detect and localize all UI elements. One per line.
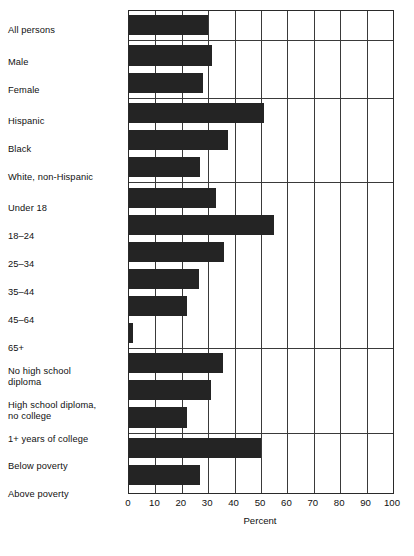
bar — [129, 323, 133, 343]
category-label: 65+ — [8, 343, 124, 354]
bar-chart: All persons Male Female Hispanic Black W… — [0, 0, 414, 556]
bar — [129, 296, 187, 316]
category-label: Hispanic — [8, 116, 124, 127]
group-separator — [129, 348, 393, 349]
plot-area — [128, 10, 394, 494]
bar — [129, 353, 223, 373]
category-label: 18–24 — [8, 231, 124, 242]
bar — [129, 45, 212, 65]
bar — [129, 242, 224, 262]
bar — [129, 465, 200, 485]
bar — [129, 215, 274, 235]
x-axis-tick-label: 10 — [149, 497, 160, 508]
x-axis-tick-label: 40 — [228, 497, 239, 508]
x-axis-tick-label: 80 — [334, 497, 345, 508]
bar — [129, 73, 203, 93]
category-label: Female — [8, 85, 124, 96]
x-axis-tick-label: 0 — [125, 497, 130, 508]
gridline — [367, 11, 368, 493]
category-label: All persons — [8, 25, 124, 36]
x-axis-tick-label: 30 — [202, 497, 213, 508]
category-label-column: All persons Male Female Hispanic Black W… — [0, 0, 120, 556]
x-axis-title: Percent — [128, 515, 392, 526]
bar — [129, 269, 199, 289]
x-axis-tick-label: 20 — [175, 497, 186, 508]
bar — [129, 130, 228, 150]
category-label: Black — [8, 144, 124, 155]
group-separator — [129, 433, 393, 434]
gridline — [261, 11, 262, 493]
category-label: White, non-Hispanic — [8, 172, 124, 183]
bar — [129, 103, 264, 123]
bar — [129, 438, 261, 458]
gridline — [340, 11, 341, 493]
group-separator — [129, 182, 393, 183]
gridline — [314, 11, 315, 493]
category-label: Above poverty — [8, 489, 124, 500]
category-label: Male — [8, 57, 124, 68]
group-separator — [129, 98, 393, 99]
category-label: High school diploma, no college — [8, 400, 124, 423]
category-label: 35–44 — [8, 287, 124, 298]
category-label: Below poverty — [8, 461, 124, 472]
category-label: Under 18 — [8, 203, 124, 214]
category-label: 45–64 — [8, 315, 124, 326]
x-axis-tick-label: 100 — [384, 497, 400, 508]
group-separator — [129, 40, 393, 41]
category-label: 25–34 — [8, 259, 124, 270]
category-label: No high school diploma — [8, 366, 124, 389]
x-axis-tick-label: 90 — [360, 497, 371, 508]
bar — [129, 15, 208, 35]
bar — [129, 157, 200, 177]
bar — [129, 407, 187, 427]
x-axis-tick-label: 60 — [281, 497, 292, 508]
bar — [129, 380, 211, 400]
gridline — [235, 11, 236, 493]
x-axis-tick-label: 50 — [255, 497, 266, 508]
gridline — [287, 11, 288, 493]
bar — [129, 188, 216, 208]
category-label: 1+ years of college — [8, 434, 124, 445]
x-axis-tick-label: 70 — [307, 497, 318, 508]
